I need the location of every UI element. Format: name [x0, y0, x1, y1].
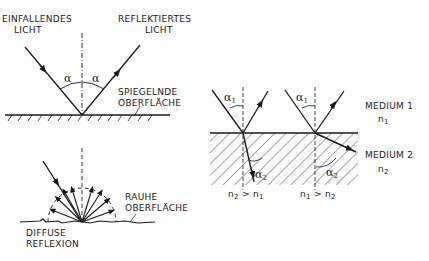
rough-leader	[130, 214, 136, 222]
reflected-right	[315, 91, 344, 133]
case-right-caption: n1 > n2	[300, 189, 336, 201]
diffuse-caption-1: DIFFUSE	[26, 228, 66, 238]
incident-arrow-icon	[40, 65, 44, 70]
refraction: α1 α2 α1 α2 MEDIUM 1 n1 MEDIUM 2 n2 n2 >…	[210, 87, 413, 201]
alpha-left: α	[64, 72, 72, 85]
reflected-arrow-icon	[114, 72, 118, 77]
mirror-label-1: SPIEGELNDE	[118, 87, 178, 97]
alpha1-left: α1	[224, 91, 236, 105]
reflected-label-1: REFLEKTIERTES	[118, 14, 191, 24]
specular-reflection: EINFALLENDES LICHT REFLEKTIERTES LICHT α…	[2, 14, 191, 121]
case-left-caption: n2 > n1	[228, 189, 264, 201]
reflected-label-2: LICHT	[145, 25, 173, 35]
incident-label-1: EINFALLENDES	[2, 14, 72, 24]
alpha-right: α	[92, 72, 100, 85]
alpha1-right-arc	[302, 105, 315, 108]
medium2-label: MEDIUM 2	[365, 150, 413, 160]
incident-ray	[25, 47, 82, 115]
medium2-index: n2	[378, 164, 389, 176]
diffuse-reflection: RAUHE OBERFLÄCHE DIFFUSE REFLEXION	[20, 148, 188, 249]
rough-label-2: OBERFLÄCHE	[125, 203, 188, 213]
reflected-left	[243, 91, 268, 133]
incident-label-2: LICHT	[14, 25, 42, 35]
diffuse-incident-ray	[43, 161, 81, 221]
medium1-label: MEDIUM 1	[365, 101, 413, 111]
alpha1-left-arc	[230, 105, 243, 108]
reflected-left-arrow-icon	[258, 103, 261, 108]
medium1-index: n1	[378, 114, 389, 126]
optics-diagram: EINFALLENDES LICHT REFLEKTIERTES LICHT α…	[0, 0, 429, 261]
diffuse-incident-arrow-icon	[54, 178, 57, 183]
surface-hatching	[8, 115, 152, 121]
diffuse-caption-2: REFLEXION	[26, 239, 79, 249]
rough-label-1: RAUHE	[125, 192, 158, 202]
mirror-label-2: OBERFLÄCHE	[118, 98, 181, 108]
alpha1-right: α1	[296, 91, 308, 105]
